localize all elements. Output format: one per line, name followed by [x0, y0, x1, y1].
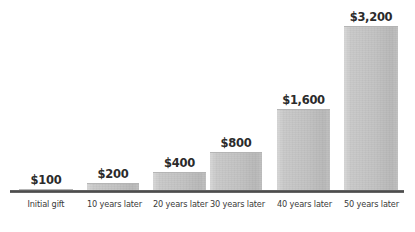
category-label: 50 years later [344, 199, 398, 209]
category-label: 20 years later [153, 199, 206, 209]
bar-value-label: $400 [164, 156, 195, 170]
bar [210, 152, 262, 193]
bar-top-edge [344, 26, 398, 27]
category-label: 40 years later [277, 199, 330, 209]
bar-top-edge [87, 183, 139, 184]
bar-group: $1,600 [277, 109, 330, 193]
bar-group: $800 [210, 152, 262, 193]
bar-top-edge [210, 152, 262, 153]
plot-area: $100 $200 $400 $800 $1,600 [0, 0, 415, 193]
category-label: 10 years later [87, 199, 139, 209]
category-axis: Initial gift 10 years later 20 years lat… [0, 199, 415, 217]
bar-group: $3,200 [344, 26, 398, 193]
bar [277, 109, 330, 193]
growth-bar-chart: $100 $200 $400 $800 $1,600 [0, 0, 415, 232]
bar-top-edge [153, 172, 206, 173]
category-label: Initial gift [19, 199, 73, 209]
bar-value-label: $800 [221, 136, 252, 150]
bar [344, 26, 398, 193]
bar-value-label: $100 [31, 173, 62, 187]
bar-value-label: $3,200 [350, 10, 393, 24]
bar-top-edge [277, 109, 330, 110]
x-axis-baseline [10, 190, 404, 193]
bar-value-label: $200 [98, 167, 129, 181]
bar-value-label: $1,600 [282, 93, 325, 107]
category-label: 30 years later [210, 199, 262, 209]
